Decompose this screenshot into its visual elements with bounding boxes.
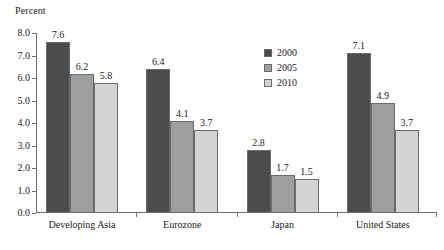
legend-item-2000[interactable]: 2000 [264,46,297,59]
legend-swatch-2010-icon [264,79,272,87]
bar[interactable] [146,69,170,213]
bar[interactable] [371,103,395,213]
bar-value-label: 7.6 [52,29,65,40]
y-axis-tick-label: 8.0 [18,28,31,38]
bar-value-label: 5.8 [100,70,113,81]
bar-value-label: 6.4 [152,56,165,67]
y-axis-line [36,33,37,213]
x-axis-category-label: Developing Asia [49,219,116,231]
y-axis-tick-mark [32,123,36,124]
y-axis-tick-mark [32,213,36,214]
legend: 2000 2005 2010 [264,46,297,91]
y-axis-tick-mark [32,168,36,169]
y-axis-title: Percent [15,5,46,17]
x-axis-tick-mark [337,213,338,217]
y-axis-tick-label: 7.0 [18,51,31,61]
y-axis-tick-mark [32,78,36,79]
plot-area: 0.01.02.03.04.05.06.07.08.0 7.66.25.86.4… [36,33,437,213]
legend-label-2000: 2000 [277,48,297,58]
y-axis-tick-label: 4.0 [18,118,31,128]
x-axis-category-label: Eurozone [163,219,201,231]
y-axis-tick-label: 6.0 [18,73,31,83]
bar-value-label: 4.9 [377,90,390,101]
bar-value-label: 3.7 [200,117,213,128]
x-axis-category-label: Japan [271,219,294,231]
y-axis-tick-mark [32,33,36,34]
x-axis-tick-mark [237,213,238,217]
y-axis-tick-mark [32,146,36,147]
y-axis-tick-label: 5.0 [18,96,31,106]
bar[interactable] [347,53,371,213]
legend-label-2005: 2005 [277,63,297,73]
bar[interactable] [46,42,70,213]
x-axis-category-label: United States [356,219,410,231]
y-axis-tick-label: 2.0 [18,163,31,173]
legend-item-2010[interactable]: 2010 [264,76,297,89]
bar-value-label: 4.1 [176,108,189,119]
bar[interactable] [271,175,295,213]
bar-value-label: 2.8 [252,137,265,148]
legend-item-2005[interactable]: 2005 [264,61,297,74]
bar-chart: Percent 0.01.02.03.04.05.06.07.08.0 7.66… [0,0,444,250]
bar-value-label: 3.7 [401,117,414,128]
bar[interactable] [94,83,118,214]
bar[interactable] [194,130,218,213]
bar[interactable] [70,74,94,214]
y-axis-tick-mark [32,101,36,102]
bar[interactable] [247,150,271,213]
bar-value-label: 6.2 [76,61,89,72]
x-axis-tick-mark [136,213,137,217]
bar[interactable] [295,179,319,213]
y-axis-tick-label: 1.0 [18,186,31,196]
y-axis-tick-mark [32,191,36,192]
bar-value-label: 1.7 [276,162,289,173]
y-axis-tick-label: 0.0 [18,208,31,218]
bar-value-label: 7.1 [353,40,366,51]
legend-swatch-2005-icon [264,64,272,72]
legend-label-2010: 2010 [277,78,297,88]
y-axis-tick-mark [32,56,36,57]
y-axis-tick-label: 3.0 [18,141,31,151]
bar[interactable] [395,130,419,213]
bar-value-label: 1.5 [300,166,313,177]
legend-swatch-2000-icon [264,49,272,57]
x-axis-tick-mark [436,213,437,217]
bar[interactable] [170,121,194,213]
